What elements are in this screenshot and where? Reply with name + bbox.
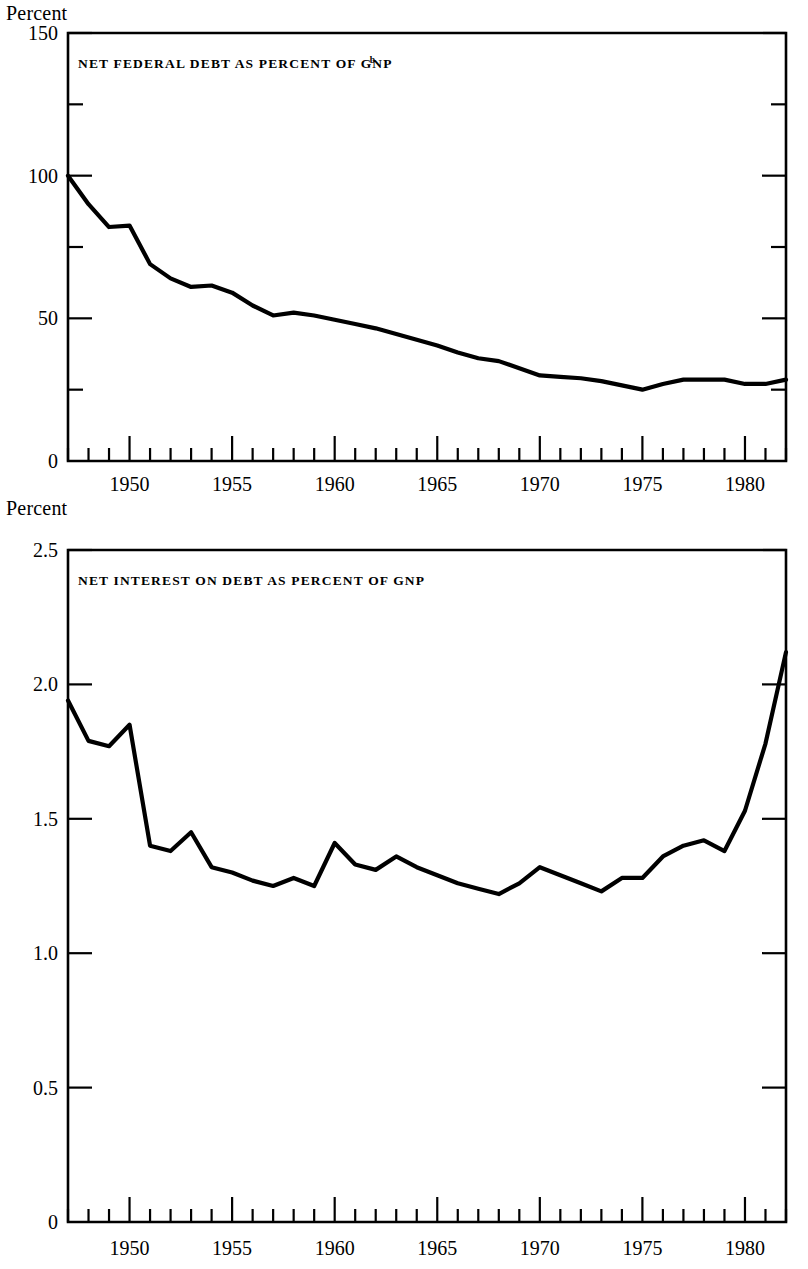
plot-area-net-interest-on-debt: 00.51.01.52.02.5 19501955196019651970197… — [0, 495, 808, 1269]
plot-frame — [68, 33, 786, 461]
x-axis-tick-label: 1950 — [110, 1237, 150, 1259]
chart-title: NET FEDERAL DEBT AS PERCENT OF GNP — [78, 56, 393, 71]
x-axis-tick-label: 1950 — [110, 473, 150, 495]
plot-area-net-federal-debt: 050100150 1950195519601965197019751980 N… — [0, 0, 808, 500]
y-axis-tick-label: 2.5 — [33, 539, 58, 561]
x-axis-tick-label: 1955 — [212, 473, 252, 495]
y-axis-tick-label: 1.0 — [33, 942, 58, 964]
chart-panel-net-federal-debt: Percent 050100150 1950195519601965197019… — [0, 0, 808, 500]
y-axis-tick-label: 0 — [48, 1211, 58, 1233]
chart-title: NET INTEREST ON DEBT AS PERCENT OF GNP — [78, 573, 425, 588]
y-axis-tick-label: 100 — [28, 165, 58, 187]
x-axis-tick-label: 1975 — [622, 473, 662, 495]
plot-frame — [68, 550, 786, 1222]
x-axis-tick-label: 1960 — [315, 473, 355, 495]
y-axis-tick-label: 0 — [48, 450, 58, 472]
data-series-line — [68, 652, 786, 894]
x-axis-tick-label: 1980 — [725, 473, 765, 495]
figure-root: Percent 050100150 1950195519601965197019… — [0, 0, 808, 1269]
data-series-line — [68, 176, 786, 390]
y-axis-tick-label: 150 — [28, 22, 58, 44]
y-axis-tick-label: 0.5 — [33, 1077, 58, 1099]
y-axis-tick-label: 50 — [38, 307, 58, 329]
x-axis-tick-label: 1980 — [725, 1237, 765, 1259]
x-axis-tick-label: 1970 — [520, 1237, 560, 1259]
x-axis-tick-label: 1975 — [622, 1237, 662, 1259]
y-axis-tick-label: 2.0 — [33, 673, 58, 695]
y-axis-tick-label: 1.5 — [33, 808, 58, 830]
x-axis-tick-label: 1955 — [212, 1237, 252, 1259]
chart-title-superscript: b — [370, 55, 375, 65]
x-axis-tick-label: 1965 — [417, 473, 457, 495]
x-axis-tick-label: 1970 — [520, 473, 560, 495]
chart-panel-net-interest-on-debt: Percent 00.51.01.52.02.5 195019551960196… — [0, 495, 808, 1269]
x-axis-tick-label: 1965 — [417, 1237, 457, 1259]
x-axis-tick-label: 1960 — [315, 1237, 355, 1259]
